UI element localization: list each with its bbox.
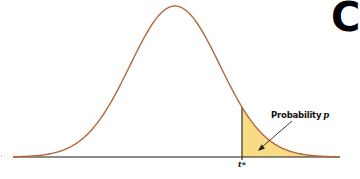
edge-mark — [1, 156, 2, 157]
corner-letter: C — [331, 0, 360, 40]
t-star-label: t* — [238, 159, 246, 169]
density-curve — [13, 6, 340, 157]
probability-annotation: Probabilityp — [271, 110, 329, 120]
probability-variable: p — [323, 110, 329, 120]
probability-word: Probability — [271, 110, 321, 120]
